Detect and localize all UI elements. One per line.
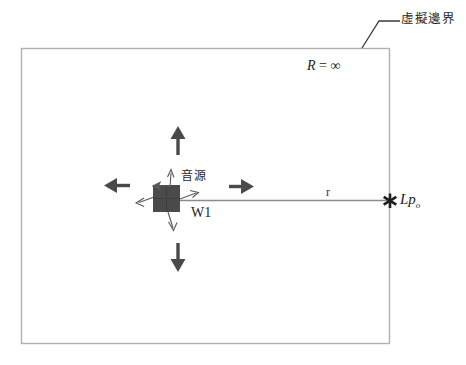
receiver-sound-pressure-label: Lpo xyxy=(400,192,420,210)
receiver-label-main: Lp xyxy=(400,191,416,207)
receiver-label-subscript: o xyxy=(416,200,421,210)
radiation-arrow-down xyxy=(168,212,177,231)
distance-label-r: r xyxy=(326,186,330,198)
arrow-right xyxy=(229,179,254,194)
virtual-boundary-label: 虛擬邊界 xyxy=(401,13,455,26)
radiation-arrow-right xyxy=(180,191,199,200)
boundary-radius-label: R = ∞ xyxy=(307,59,340,73)
arrow-up xyxy=(171,126,186,155)
sound-source-block xyxy=(153,185,180,212)
diagram-canvas xyxy=(0,0,466,365)
radiation-arrow-left xyxy=(136,197,154,207)
boundary-leader-line xyxy=(362,21,400,48)
radius-symbol: R xyxy=(307,58,316,73)
arrow-down xyxy=(171,243,186,272)
virtual-boundary-rect xyxy=(22,49,390,344)
sound-source-label: 音源 xyxy=(181,170,206,182)
radius-equals: = xyxy=(319,58,327,73)
radiation-arrow-up-shaft xyxy=(168,170,175,188)
radius-value: ∞ xyxy=(330,58,340,73)
arrow-left xyxy=(104,178,130,193)
acoustic-free-field-diagram: 虛擬邊界 R = ∞ 音源 W1 r Lpo xyxy=(0,0,466,365)
sound-power-label: W1 xyxy=(191,206,211,220)
